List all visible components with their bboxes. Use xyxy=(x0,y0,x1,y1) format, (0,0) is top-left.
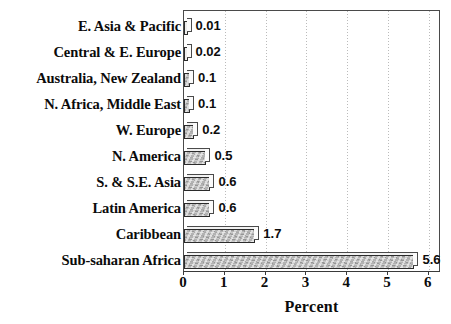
x-tick-label: 6 xyxy=(416,274,440,291)
x-axis-line xyxy=(183,271,440,272)
bar[interactable] xyxy=(184,70,194,87)
bar-row: 0.1 xyxy=(184,66,439,92)
bar-side-face xyxy=(254,226,259,240)
bar[interactable] xyxy=(184,226,259,243)
bar-row: 0.02 xyxy=(184,40,439,66)
bar-row: 0.6 xyxy=(184,196,439,222)
bar[interactable] xyxy=(184,96,194,113)
category-label: N. America xyxy=(112,143,181,169)
bar-row: 0.5 xyxy=(184,144,439,170)
bar-side-face xyxy=(209,200,214,214)
bar-side-face xyxy=(187,18,192,32)
bar-value-label: 0.01 xyxy=(196,16,221,35)
category-label: Sub-saharan Africa xyxy=(62,247,181,273)
bar-value-label: 5.6 xyxy=(422,250,440,269)
bar-value-label: 0.02 xyxy=(196,42,221,61)
category-label: Caribbean xyxy=(116,221,181,247)
bar-row: 1.7 xyxy=(184,222,439,248)
x-tick-label: 4 xyxy=(334,274,358,291)
bar[interactable] xyxy=(184,18,192,35)
category-label: N. Africa, Middle East xyxy=(44,91,181,117)
bar-row: 0.01 xyxy=(184,14,439,40)
bar-front-face xyxy=(184,151,206,165)
bar-rows: 0.010.020.10.10.20.50.60.61.75.6 xyxy=(184,11,439,271)
x-tick-label: 0 xyxy=(171,274,195,291)
bar-side-face xyxy=(189,96,194,110)
bar-side-face xyxy=(187,44,192,58)
category-label: Australia, New Zealand xyxy=(36,65,181,91)
bar-front-face xyxy=(184,203,210,217)
bar-front-face xyxy=(184,229,255,243)
category-label: E. Asia & Pacific xyxy=(78,13,181,39)
bar[interactable] xyxy=(184,122,198,139)
bar-front-face xyxy=(184,177,210,191)
category-label: W. Europe xyxy=(116,117,181,143)
x-tick-label: 5 xyxy=(375,274,399,291)
x-tick-label: 2 xyxy=(253,274,277,291)
category-label: Latin America xyxy=(92,195,181,221)
chart-page: E. Asia & PacificCentral & E. EuropeAust… xyxy=(0,0,451,324)
category-axis-labels: E. Asia & PacificCentral & E. EuropeAust… xyxy=(0,10,181,272)
category-label: Central & E. Europe xyxy=(53,39,181,65)
bar-row: 0.2 xyxy=(184,118,439,144)
bar-value-label: 0.1 xyxy=(198,68,216,87)
bar-value-label: 0.2 xyxy=(202,120,220,139)
bar-value-label: 0.5 xyxy=(214,146,232,165)
bar-value-label: 1.7 xyxy=(263,224,281,243)
x-axis-title: Percent xyxy=(183,298,440,316)
bar[interactable] xyxy=(184,200,214,217)
x-tick-label: 3 xyxy=(293,274,317,291)
bar-front-face xyxy=(184,255,414,269)
bar-row: 0.1 xyxy=(184,92,439,118)
bar-value-label: 0.6 xyxy=(218,172,236,191)
bar-side-face xyxy=(189,70,194,84)
bar-value-label: 0.1 xyxy=(198,94,216,113)
bar[interactable] xyxy=(184,174,214,191)
bar[interactable] xyxy=(184,44,192,61)
bar[interactable] xyxy=(184,252,418,269)
plot-area: 0.010.020.10.10.20.50.60.61.75.6 xyxy=(183,10,440,272)
bar-side-face xyxy=(413,252,418,266)
bar[interactable] xyxy=(184,148,210,165)
bar-side-face xyxy=(193,122,198,136)
category-label: S. & S.E. Asia xyxy=(96,169,181,195)
bar-row: 0.6 xyxy=(184,170,439,196)
bar-side-face xyxy=(209,174,214,188)
x-tick-label: 1 xyxy=(212,274,236,291)
bar-side-face xyxy=(205,148,210,162)
bar-value-label: 0.6 xyxy=(218,198,236,217)
